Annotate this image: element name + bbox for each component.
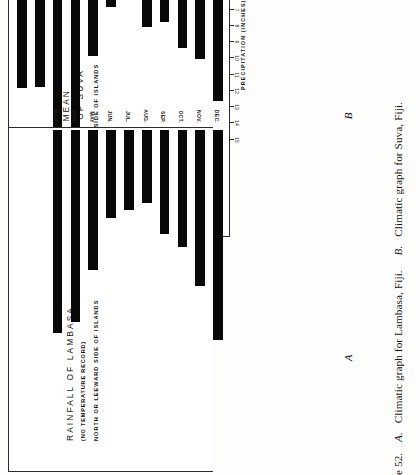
bar-suva-jun xyxy=(106,0,116,7)
tick-mark-12 xyxy=(230,90,234,91)
tick-mark-8 xyxy=(230,25,234,26)
bar-lambasa-oct xyxy=(178,130,188,247)
panel-letter-a: A xyxy=(342,355,354,362)
month-label-lambasa-apr: APR. xyxy=(71,110,77,123)
month-label-lambasa-mar: MAR. xyxy=(53,109,59,123)
caption-part-b-text: Climatic graph for Suva, Fiji. xyxy=(392,102,404,237)
bar-lambasa-dec xyxy=(213,130,223,340)
tick-label-13: 13 xyxy=(234,101,240,113)
month-label-lambasa-may: MAY xyxy=(89,111,95,123)
caption-part-a-text: Climatic graph for Lambasa, Fiji. xyxy=(392,270,404,423)
bar-lambasa-may xyxy=(88,130,98,270)
chart-lambasa-panel: RAINFALL OF LAMBASA (NO TEMPERATURE RECO… xyxy=(8,127,213,472)
tick-label-15: 15 xyxy=(234,134,240,146)
figure-caption: e 52. A. Climatic graph for Lambasa, Fij… xyxy=(392,0,420,475)
bar-suva-feb xyxy=(35,0,45,87)
bar-suva-dec xyxy=(213,0,223,101)
bar-lambasa-aug xyxy=(142,130,152,203)
month-label-lambasa-aug: AUG. xyxy=(143,109,149,123)
tick-mark-15 xyxy=(230,139,234,140)
caption-part-b-label: B. xyxy=(392,246,404,256)
bar-lambasa-sep xyxy=(160,130,170,234)
lambasa-bars-area xyxy=(9,128,213,471)
tick-mark-10 xyxy=(230,58,234,59)
bar-lambasa-apr xyxy=(71,130,81,322)
panel-letter-b: B xyxy=(342,113,354,120)
tick-mark-11 xyxy=(230,74,234,75)
tick-label-14: 14 xyxy=(234,118,240,130)
tick-mark-14 xyxy=(230,123,234,124)
bar-lambasa-nov xyxy=(195,130,205,286)
month-label-lambasa-dec: DEC. xyxy=(214,110,220,123)
bar-suva-jan xyxy=(17,0,27,88)
tick-mark-13 xyxy=(230,106,234,107)
bar-suva-may xyxy=(88,0,98,56)
scanned-figure-page: RAINFALL AND MEAN TEMPERATURE OF SUVA SO… xyxy=(0,0,420,475)
month-label-lambasa-jun: JUN. xyxy=(107,110,113,123)
month-label-lambasa-nov: NOV. xyxy=(196,110,202,123)
month-label-lambasa-jul: JUL. xyxy=(125,111,131,123)
bar-suva-aug xyxy=(142,0,152,27)
caption-part-a-label: A. xyxy=(392,432,404,442)
suva-ylabel: PRECIPITATION (INCHES) xyxy=(240,0,246,90)
bar-suva-oct xyxy=(178,0,188,48)
tick-mark-9 xyxy=(230,41,234,42)
tick-mark-7 xyxy=(230,9,234,10)
month-label-lambasa-sep: SEP. xyxy=(160,111,166,123)
caption-figure-number: e 52. xyxy=(392,453,404,475)
bar-lambasa-mar xyxy=(53,130,63,333)
bar-suva-sep xyxy=(160,0,170,22)
month-label-lambasa-oct: OCT. xyxy=(178,110,184,123)
bar-suva-nov xyxy=(195,0,205,59)
bar-lambasa-jun xyxy=(106,130,116,218)
bar-lambasa-jul xyxy=(124,130,134,210)
chart-lambasa-stage: RAINFALL OF LAMBASA (NO TEMPERATURE RECO… xyxy=(0,255,352,475)
